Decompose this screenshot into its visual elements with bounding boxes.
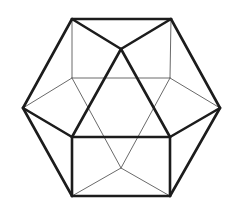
wireframe-drawing <box>0 0 242 205</box>
visible-edge <box>121 19 171 49</box>
cuboctahedron-figure <box>0 0 242 205</box>
visible-edge <box>72 19 121 49</box>
hidden-edge <box>72 168 121 196</box>
hidden-edge <box>170 19 171 78</box>
visible-edge <box>23 19 72 108</box>
hidden-edges <box>23 19 220 196</box>
hidden-edge <box>121 168 170 196</box>
visible-edge <box>171 19 220 108</box>
visible-edges <box>23 19 220 196</box>
